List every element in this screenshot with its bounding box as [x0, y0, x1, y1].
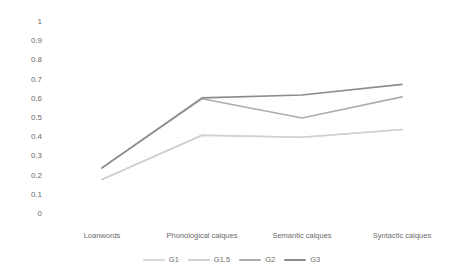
x-axis-tick-label: Syntactic calques — [373, 230, 431, 241]
legend-swatch-icon — [239, 259, 261, 261]
y-axis-tick-label: 0.5 — [31, 113, 42, 123]
legend-item-g2[interactable]: G2 — [239, 255, 275, 265]
series-line-g3 — [102, 84, 402, 168]
legend-item-label: G2 — [265, 255, 275, 265]
y-axis-tick-label: 0.4 — [31, 132, 42, 142]
y-axis-tick-label: 0.7 — [31, 75, 42, 85]
legend-item-g1[interactable]: G1 — [143, 255, 179, 265]
x-axis-tick-label: Semantic calques — [272, 230, 331, 241]
legend-item-g3[interactable]: G3 — [284, 255, 320, 265]
gridline — [52, 214, 452, 215]
legend-swatch-icon — [143, 259, 165, 261]
y-axis-tick-label: 0.8 — [31, 55, 42, 65]
y-axis-tick-label: 0.3 — [31, 151, 42, 161]
y-axis-tick-label: 0 — [38, 209, 42, 219]
x-axis: LoanwordsPhonological calquesSemantic ca… — [52, 230, 452, 244]
y-axis-tick-label: 0.1 — [31, 190, 42, 200]
line-chart: 10.90.80.70.60.50.40.30.20.10 LoanwordsP… — [0, 0, 463, 276]
y-axis-tick-label: 0.2 — [31, 171, 42, 181]
legend-item-label: G1.5 — [214, 255, 230, 265]
x-axis-tick-label: Phonological calques — [167, 230, 238, 241]
legend-item-g1-5[interactable]: G1.5 — [188, 255, 230, 265]
legend-swatch-icon — [188, 259, 210, 261]
y-axis: 10.90.80.70.60.50.40.30.20.10 — [0, 0, 48, 224]
chart-legend: G1G1.5G2G3 — [0, 252, 463, 268]
series-lines — [52, 22, 452, 214]
x-axis-tick-label: Loanwords — [84, 230, 121, 241]
y-axis-tick-label: 0.6 — [31, 94, 42, 104]
legend-swatch-icon — [284, 259, 306, 261]
y-axis-tick-label: 1 — [38, 17, 42, 27]
legend-item-label: G1 — [169, 255, 179, 265]
legend-item-label: G3 — [310, 255, 320, 265]
plot-area — [52, 22, 452, 214]
y-axis-tick-label: 0.9 — [31, 36, 42, 46]
